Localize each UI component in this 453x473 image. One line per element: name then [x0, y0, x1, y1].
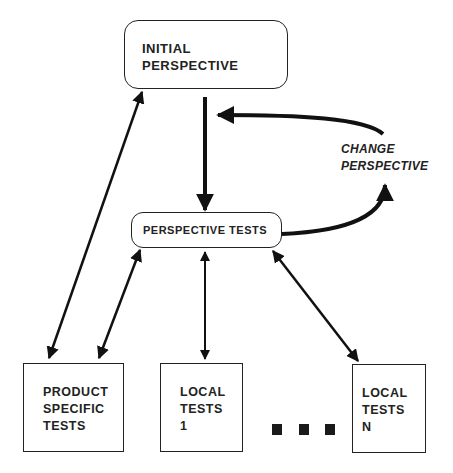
- node-label: PRODUCT SPECIFIC TESTS: [43, 384, 108, 435]
- node-product-specific-tests: PRODUCT SPECIFIC TESTS: [23, 363, 124, 452]
- ellipsis-dot-2: [299, 424, 309, 435]
- ellipsis-dot-3: [325, 424, 335, 435]
- arrow-initial-product-specific: [49, 92, 142, 358]
- node-label: LOCAL TESTS 1: [180, 384, 226, 435]
- edge-label-change-perspective: CHANGE PERSPECTIVE: [341, 141, 428, 175]
- node-initial-perspective: INITIAL PERSPECTIVE: [124, 20, 288, 89]
- node-label: LOCAL TESTS N: [362, 385, 408, 436]
- arrow-ptests-local-n: [273, 251, 358, 361]
- arrow-ptests-product-specific: [99, 250, 140, 358]
- arrow-change-to-initial: [218, 115, 383, 134]
- arrow-perspective-tests-to-change: [282, 185, 385, 234]
- node-label: PERSPECTIVE TESTS: [143, 222, 267, 239]
- node-local-tests-1: LOCAL TESTS 1: [160, 363, 243, 452]
- diagram-canvas: INITIAL PERSPECTIVE PERSPECTIVE TESTS CH…: [0, 0, 453, 473]
- node-perspective-tests: PERSPECTIVE TESTS: [131, 212, 282, 248]
- node-label: INITIAL PERSPECTIVE: [142, 40, 239, 74]
- ellipsis-dot-1: [272, 424, 282, 435]
- node-local-tests-n: LOCAL TESTS N: [352, 364, 426, 453]
